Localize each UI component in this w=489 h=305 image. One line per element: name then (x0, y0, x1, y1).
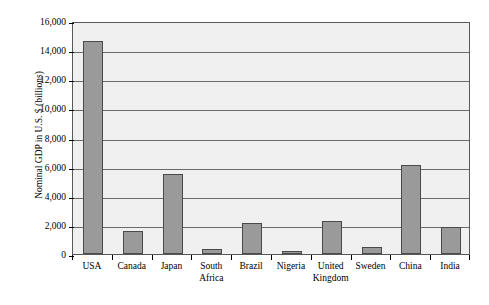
x-axis-tick-marks (72, 255, 470, 260)
x-tick-mark (112, 255, 113, 260)
y-tick-label: 2,000 (45, 221, 66, 231)
bar-china (401, 165, 421, 254)
bar-chart-figure: Nominal GDP by Country Nominal GDP in U.… (0, 0, 489, 305)
x-tick-mark (191, 255, 192, 260)
y-tick-label: 10,000 (40, 104, 66, 114)
bar-usa (83, 41, 103, 254)
x-tick-label-line: Kingdom (305, 273, 357, 285)
x-tick-label-line: China (399, 261, 422, 271)
x-tick-label-line: United (318, 261, 344, 271)
x-tick-label-line: Japan (161, 261, 183, 271)
bar-canada (123, 231, 143, 254)
x-tick-mark (390, 255, 391, 260)
y-tick-label: 8,000 (45, 134, 66, 144)
plot-area (72, 22, 470, 255)
x-tick-mark (469, 255, 470, 260)
x-axis-tick-labels: USACanadaJapanSouthAfricaBrazilNigeriaUn… (72, 261, 470, 301)
x-tick-label-line: Brazil (239, 261, 262, 271)
bar-india (441, 227, 461, 254)
x-tick-label-line: Africa (185, 273, 237, 285)
x-tick-mark (430, 255, 431, 260)
y-tick-label: 14,000 (40, 46, 66, 56)
x-tick-label-line: South (200, 261, 222, 271)
x-tick-mark (72, 255, 73, 260)
x-tick-mark (351, 255, 352, 260)
y-tick-label: 6,000 (45, 163, 66, 173)
x-tick-label-line: Nigeria (277, 261, 306, 271)
x-tick-mark (152, 255, 153, 260)
y-axis-tick-labels: 02,0004,0006,0008,00010,00012,00014,0001… (22, 22, 66, 255)
x-tick-label-india: India (424, 261, 476, 273)
y-tick-label: 0 (61, 250, 66, 260)
bar-nigeria (282, 251, 302, 254)
bar-brazil (242, 223, 262, 254)
bar-japan (163, 174, 183, 254)
x-tick-label-line: Sweden (355, 261, 385, 271)
bar-south-africa (202, 249, 222, 254)
x-tick-label-line: Canada (117, 261, 146, 271)
x-tick-mark (311, 255, 312, 260)
y-tick-label: 4,000 (45, 192, 66, 202)
x-tick-label-line: India (440, 261, 460, 271)
y-tick-label: 12,000 (40, 75, 66, 85)
x-tick-mark (271, 255, 272, 260)
bar-series (73, 23, 469, 254)
y-tick-label: 16,000 (40, 17, 66, 27)
bar-united-kingdom (322, 221, 342, 254)
bar-sweden (362, 247, 382, 254)
x-tick-label-line: USA (82, 261, 101, 271)
x-tick-mark (231, 255, 232, 260)
